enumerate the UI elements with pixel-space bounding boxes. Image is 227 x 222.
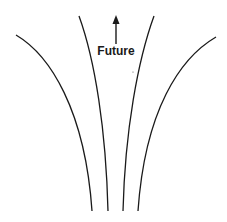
arrow-up-icon xyxy=(113,15,120,44)
curve-outer-right xyxy=(138,37,216,211)
curve-outer-left xyxy=(16,35,92,211)
future-diagram: Future xyxy=(0,0,227,222)
future-label: Future xyxy=(97,44,135,58)
stray-dot xyxy=(132,71,133,72)
